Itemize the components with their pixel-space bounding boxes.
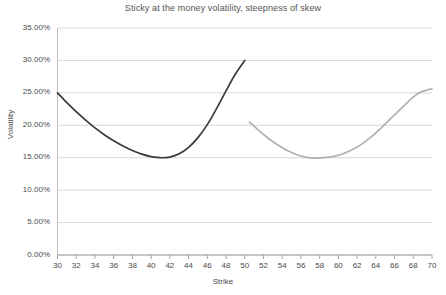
chart-container: Sticky at the money volatility, steepnes… — [0, 0, 446, 295]
plot-svg — [0, 0, 446, 295]
y-tick-label: 10.00% — [0, 185, 50, 194]
x-axis-label: Strike — [0, 277, 446, 286]
y-axis-label: Volatility — [6, 95, 15, 155]
series-line-initial-skew — [58, 60, 245, 157]
series-line-shifted-skew — [249, 89, 432, 158]
y-tick-label: 0.00% — [0, 250, 50, 259]
x-axis-ticks — [58, 255, 433, 259]
x-tick-label: 70 — [420, 261, 444, 270]
y-tick-label: 35.00% — [0, 23, 50, 32]
y-tick-label: 5.00% — [0, 217, 50, 226]
data-series — [58, 60, 433, 158]
y-tick-label: 30.00% — [0, 55, 50, 64]
